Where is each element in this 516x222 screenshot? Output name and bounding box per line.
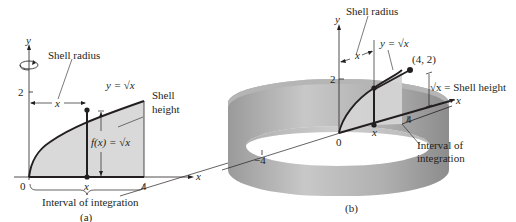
shell-radius-label-b: Shell radius [346, 6, 398, 17]
tick-4-a: 4 [141, 181, 147, 192]
tick-4-b: 4 [406, 114, 412, 125]
interval-label-b-1: Interval of [417, 140, 463, 151]
caption-a: (a) [80, 212, 92, 222]
radius-var-b: x [355, 50, 360, 61]
tick-2-b: 2 [330, 74, 336, 85]
x-axis-label-b: x [456, 95, 461, 106]
curve-label-b: y = √x [380, 38, 409, 49]
tick-x-a: x [84, 181, 89, 192]
diagram-canvas [0, 0, 516, 222]
shell-height-label-a-2: height [152, 104, 180, 115]
y-axis-label-b: y [335, 14, 340, 25]
tick-origin-a: 0 [20, 181, 26, 192]
point-label-b: (4, 2) [412, 54, 436, 65]
caption-b: (b) [345, 203, 358, 214]
y-axis-label-a: y [26, 35, 31, 46]
x-axis-label-a: x [196, 171, 201, 182]
interval-label-b-2: integration [417, 153, 465, 164]
shell-radius-label-a: Shell radius [48, 50, 100, 61]
panel-a-graph [14, 44, 194, 195]
shell-height-label-a-1: Shell [152, 90, 175, 101]
tick-origin-b: 0 [336, 137, 342, 148]
radius-var-a: x [55, 98, 60, 109]
tick-neg4-b: −4 [254, 155, 266, 166]
curve-label-a: y = √x [106, 80, 135, 91]
tick-2-a: 2 [18, 87, 24, 98]
shell-height-label-b: √x = Shell height [430, 82, 506, 93]
height-formula-a: f(x) = √x [91, 137, 130, 148]
tick-x-b: x [372, 127, 377, 138]
interval-label-a: Interval of integration [42, 197, 139, 208]
